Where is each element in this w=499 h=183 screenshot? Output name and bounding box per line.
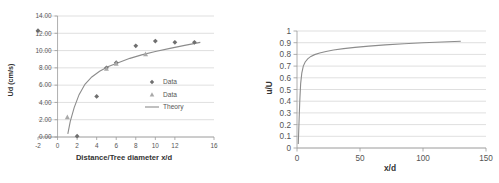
two-panel-figure: -202468101216 0.002.004.006.008.0010.001… <box>0 0 499 183</box>
y-tick-label: 4.00 <box>39 99 52 106</box>
y-tick-label: 0.8 <box>280 50 292 59</box>
left-chart-svg: -202468101216 0.002.004.006.008.0010.001… <box>0 0 250 183</box>
x-tick-label: 50 <box>355 154 365 163</box>
y-tick-label: 10.00 <box>36 47 52 54</box>
right-chart-panel: 050100150 00.10.20.30.40.50.60.70.80.91 … <box>250 0 499 183</box>
y-tick-label: 12.00 <box>36 30 52 37</box>
y-tick-label: 0 <box>286 144 291 153</box>
x-tick-label: 100 <box>416 154 430 163</box>
x-tick-label: 8 <box>134 142 138 149</box>
y-tick-label: 0.2 <box>280 121 292 130</box>
y-tick-label: 8.00 <box>39 64 52 71</box>
left-chart-panel: -202468101216 0.002.004.006.008.0010.001… <box>0 0 250 183</box>
left-chart-x-axis-title: Distance/Tree diameter x/d <box>76 153 173 162</box>
y-tick-label: 0.3 <box>280 109 292 118</box>
x-tick-label: 0 <box>56 142 60 149</box>
y-tick-label: 6.00 <box>39 81 52 88</box>
y-tick-label: 0.6 <box>280 74 292 83</box>
y-tick-label: 0.7 <box>280 62 292 71</box>
legend-label: Data <box>163 78 177 85</box>
x-tick-label: 16 <box>210 142 218 149</box>
y-tick-label: 0.00 <box>39 133 52 140</box>
legend-label: Theory <box>163 103 184 111</box>
y-tick-label: 0.4 <box>280 97 292 106</box>
legend-label: Data <box>163 91 177 98</box>
right-chart-svg: 050100150 00.10.20.30.40.50.60.70.80.91 … <box>250 0 499 183</box>
x-tick-label: 12 <box>171 142 179 149</box>
x-tick-label: 0 <box>295 154 300 163</box>
right-chart-x-axis-title: x/d <box>384 163 396 173</box>
x-tick-label: 10 <box>152 142 160 149</box>
y-tick-label: 2.00 <box>39 116 52 123</box>
x-tick-label: 6 <box>114 142 118 149</box>
y-tick-label: 0.9 <box>280 39 292 48</box>
right-chart-y-tick-labels: 00.10.20.30.40.50.60.70.80.91 <box>280 27 292 153</box>
right-chart-y-axis-title: u/U <box>265 81 274 94</box>
y-tick-label: 0.5 <box>280 86 292 95</box>
y-tick-label: 1 <box>286 27 291 36</box>
x-tick-label: -2 <box>35 142 41 149</box>
x-tick-label: 2 <box>75 142 79 149</box>
x-tick-label: 4 <box>95 142 99 149</box>
y-tick-label: 14.00 <box>36 12 52 19</box>
y-tick-label: 0.1 <box>280 132 292 141</box>
x-tick-label: 150 <box>479 154 493 163</box>
left-chart-y-axis-title: Ud (cm/s) <box>6 63 15 96</box>
